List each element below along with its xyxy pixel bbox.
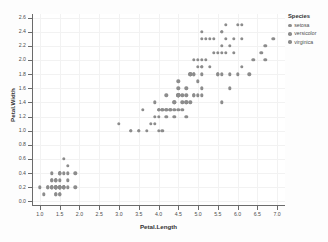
data-point bbox=[240, 23, 243, 26]
gridline-horizontal bbox=[32, 88, 285, 89]
legend-item-versicolor[interactable]: versicolor bbox=[288, 31, 328, 36]
data-point bbox=[157, 115, 160, 118]
data-point bbox=[50, 186, 53, 189]
gridline-horizontal bbox=[32, 46, 285, 47]
y-tick-label: 0.2 bbox=[19, 185, 26, 190]
data-point bbox=[200, 94, 203, 97]
data-point bbox=[220, 72, 223, 75]
data-point bbox=[117, 122, 120, 125]
data-point bbox=[157, 108, 160, 111]
legend-title: Species bbox=[288, 14, 328, 20]
y-tick-mark bbox=[28, 60, 32, 61]
y-tick-mark bbox=[28, 32, 32, 33]
data-point bbox=[58, 193, 61, 196]
x-tick-label: 2.5 bbox=[96, 212, 103, 217]
gridline-horizontal bbox=[32, 145, 285, 146]
data-point bbox=[38, 186, 41, 189]
data-point bbox=[236, 72, 239, 75]
y-tick-mark bbox=[28, 173, 32, 174]
legend-item-virginica[interactable]: virginica bbox=[288, 40, 328, 45]
data-point bbox=[50, 171, 53, 174]
gridline-vertical bbox=[198, 14, 199, 205]
data-point bbox=[137, 129, 140, 132]
data-point bbox=[54, 179, 57, 182]
data-point bbox=[200, 58, 203, 61]
data-point bbox=[184, 101, 187, 104]
data-point bbox=[157, 129, 160, 132]
data-point bbox=[220, 30, 223, 33]
data-point bbox=[200, 72, 203, 75]
gridline-vertical bbox=[40, 14, 41, 205]
data-point bbox=[165, 115, 168, 118]
data-point bbox=[200, 65, 203, 68]
gridline-vertical bbox=[218, 14, 219, 205]
data-point bbox=[196, 80, 199, 83]
y-tick-label: 1.0 bbox=[19, 128, 26, 133]
data-point bbox=[181, 108, 184, 111]
data-point bbox=[192, 94, 195, 97]
y-tick-mark bbox=[28, 88, 32, 89]
data-point bbox=[177, 87, 180, 90]
data-point bbox=[220, 44, 223, 47]
data-point bbox=[220, 51, 223, 54]
data-point bbox=[204, 58, 207, 61]
data-point bbox=[212, 51, 215, 54]
y-tick-label: 1.6 bbox=[19, 86, 26, 91]
legend-marker-icon bbox=[288, 40, 292, 44]
legend-marker-icon bbox=[288, 32, 292, 36]
gridline-vertical bbox=[277, 14, 278, 205]
y-tick-label: 1.8 bbox=[19, 72, 26, 77]
data-point bbox=[228, 44, 231, 47]
legend-item-setosa[interactable]: setosa bbox=[288, 23, 328, 28]
data-point bbox=[212, 37, 215, 40]
x-tick-label: 7.0 bbox=[273, 212, 280, 217]
x-tick-mark bbox=[60, 206, 61, 210]
data-point bbox=[153, 101, 156, 104]
data-point bbox=[192, 58, 195, 61]
data-point bbox=[54, 193, 57, 196]
y-tick-label: 0.8 bbox=[19, 142, 26, 147]
data-point bbox=[216, 51, 219, 54]
data-point bbox=[165, 108, 168, 111]
x-tick-label: 5.5 bbox=[214, 212, 221, 217]
y-tick-mark bbox=[28, 201, 32, 202]
y-tick-label: 1.2 bbox=[19, 114, 26, 119]
data-point bbox=[181, 101, 184, 104]
data-point bbox=[173, 108, 176, 111]
x-axis-title: Petal.Length bbox=[0, 224, 317, 230]
data-point bbox=[200, 30, 203, 33]
data-point bbox=[224, 37, 227, 40]
data-point bbox=[153, 122, 156, 125]
data-point bbox=[165, 94, 168, 97]
x-tick-label: 3.0 bbox=[115, 212, 122, 217]
data-point bbox=[74, 171, 77, 174]
data-point bbox=[145, 129, 148, 132]
x-tick-mark bbox=[119, 206, 120, 210]
data-point bbox=[50, 179, 53, 182]
y-tick-mark bbox=[28, 102, 32, 103]
x-tick-mark bbox=[159, 206, 160, 210]
data-point bbox=[58, 171, 61, 174]
data-point bbox=[216, 72, 219, 75]
data-point bbox=[177, 80, 180, 83]
x-tick-mark bbox=[40, 206, 41, 210]
data-point bbox=[169, 108, 172, 111]
data-point bbox=[184, 94, 187, 97]
y-tick-mark bbox=[28, 74, 32, 75]
x-tick-label: 4.5 bbox=[175, 212, 182, 217]
y-tick-mark bbox=[28, 131, 32, 132]
y-tick-label: 0.0 bbox=[19, 199, 26, 204]
data-point bbox=[192, 72, 195, 75]
gridline-vertical bbox=[257, 14, 258, 205]
data-point bbox=[58, 186, 61, 189]
gridline-horizontal bbox=[32, 60, 285, 61]
data-point bbox=[236, 23, 239, 26]
data-point bbox=[240, 37, 243, 40]
data-point bbox=[129, 129, 132, 132]
legend: Species setosaversicolorvirginica bbox=[288, 14, 328, 48]
x-tick-label: 2.0 bbox=[76, 212, 83, 217]
gridline-horizontal bbox=[32, 187, 285, 188]
data-point bbox=[173, 115, 176, 118]
gridline-vertical bbox=[99, 14, 100, 205]
data-point bbox=[181, 94, 184, 97]
